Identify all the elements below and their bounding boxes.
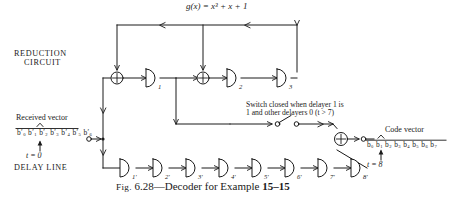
adder-output [335,133,348,146]
generator-polynomial-label: g(x) = x³ + x + 1 [186,2,247,12]
delayer-r2 [227,69,236,87]
delayer-d4 [219,159,228,177]
delayer-d5 [252,159,261,177]
delayer-label-r3: 3 [289,83,292,90]
figure-caption: Fig. 6.28—Decoder for Example 15–15 [116,181,290,193]
delayer-d6 [285,159,294,177]
caption-dash: — [154,180,165,192]
time-end-arrow [379,149,384,160]
time-start-label: t = 0 [26,152,42,161]
delayer-d8 [351,159,360,177]
delayer-label-d7: 7′ [330,173,335,180]
time-end-label: t = 8 [367,161,383,170]
switch[interactable] [275,116,337,129]
code-vector-label: Code vector [385,126,424,135]
feedback-bus [117,23,297,72]
received-vector-label: Received vector [16,114,68,123]
switch-annotation: Switch closed when delayer 1 is 1 and ot… [246,101,344,117]
generator-polynomial-text: g(x) = x³ + x + 1 [186,1,247,11]
caption-number: 6.28 [135,180,154,192]
switch-line2: 1 and other delayers 0 (t > 7) [246,108,334,117]
caption-example: 15–15 [262,180,290,192]
delayer-label-d8: 8′ [363,173,368,180]
caption-text: Decoder for Example [165,180,260,192]
adder-mid [197,72,209,84]
code-vector-bits: b0 b1 b2 b3 b4 b5 b6 b7 [367,141,437,150]
delayer-d1 [120,159,129,177]
label-reduction-circuit: REDUCTION CIRCUIT [14,50,67,68]
delayer-label-r2: 2 [239,83,242,90]
delayer-d2 [153,159,162,177]
delayer-r3 [277,69,286,87]
time-start-arrow [38,140,43,151]
reduction-line2: CIRCUIT [24,59,61,68]
reduction-line1: REDUCTION [14,49,67,58]
delayer-label-r1: 1 [158,83,161,90]
decoder-circuit-diagram [0,0,453,199]
delayer-r1 [146,69,155,87]
caption-prefix: Fig. [116,182,132,192]
delayer-d7 [318,159,327,177]
delayer-label-d6: 6′ [297,173,302,180]
label-delay-line: DELAY LINE [14,164,67,173]
delayer-d3 [186,159,195,177]
adder-input [111,72,123,84]
received-vector-bits: b′0 b′1 b′2 b′3 b′4 b′5 b′6 [17,129,92,138]
